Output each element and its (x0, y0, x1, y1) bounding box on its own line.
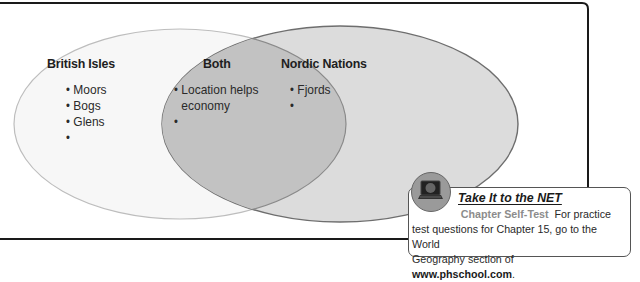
list-item-line: Location helps (181, 82, 258, 97)
list-item: Fjords (290, 82, 331, 98)
computer-monitor-icon (411, 172, 451, 212)
british-isles-list: Moors Bogs Glens (66, 82, 107, 146)
nordic-nations-list: Fjords (290, 82, 331, 114)
list-item: Location helpseconomy (174, 82, 258, 114)
list-item: Bogs (66, 98, 107, 114)
list-item (66, 130, 107, 146)
net-callout-title: Take It to the NET (458, 190, 562, 205)
list-item (174, 114, 258, 130)
list-item: Glens (66, 114, 107, 130)
net-callout-text-line3-prefix: Geography section of (412, 253, 514, 265)
net-callout-text-line3: Geography section of www.phschool.com. (412, 252, 615, 282)
net-callout-subtitle: Chapter Self-Test (461, 208, 549, 220)
net-callout-text-line2: test questions for Chapter 15, go to the… (412, 222, 615, 252)
nordic-nations-heading: Nordic Nations (281, 56, 367, 71)
phschool-link[interactable]: www.phschool.com (412, 268, 512, 280)
net-callout-text-line3-suffix: . (512, 268, 515, 280)
net-callout-body: Chapter Self-Test For practice test ques… (412, 207, 615, 282)
list-item: Moors (66, 82, 107, 98)
list-item (290, 98, 331, 114)
british-isles-heading: British Isles (47, 56, 115, 71)
list-item-line: economy (181, 98, 230, 113)
both-list: Location helpseconomy (174, 82, 258, 130)
both-heading: Both (203, 56, 231, 71)
net-callout-text-line1: For practice (555, 208, 611, 220)
